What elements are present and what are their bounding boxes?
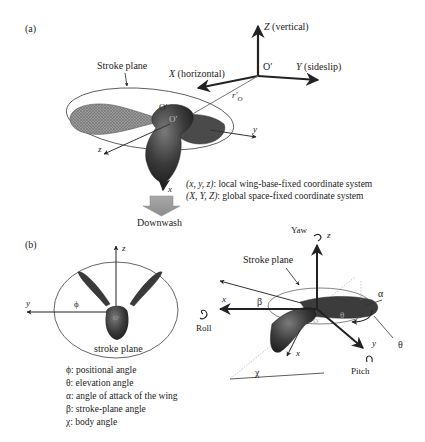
front-stroke-plane-label: stroke plane [94,343,143,354]
alpha-label: α [378,288,384,299]
angle-text: : body angle [70,417,117,427]
downwash-arrow [143,196,180,216]
origin-label-a: O′ [159,102,167,112]
front-right-wing [130,272,162,306]
theta-outer-label: θ [398,339,403,350]
stroke-plane-label-a: Stroke plane [97,60,148,71]
local-y-label: y [252,124,257,134]
side-origin-label: O′ [313,317,320,325]
local-x-axis [163,180,164,190]
theta-pointer [374,316,393,338]
side-x-label: x [221,294,226,304]
Y-axis-arrow [258,76,318,80]
legend-global-text: : global space-fixed coordinate system [217,191,363,201]
side-z-label: z [326,230,331,240]
legend-local-coords: (x, y, z): local wing-base-fixed coordin… [186,178,372,190]
roll-label: Roll [196,323,212,333]
roll-rotation-icon [200,310,207,319]
panel-a-label: (a) [25,23,36,35]
angle-def-phi: ϕ: positional angle [66,364,136,376]
front-left-wing [78,272,110,306]
Z-axis-label: Z (vertical) [264,21,309,33]
angle-def-theta: θ: elevation angle [66,377,133,389]
Y-axis-label: Y (sideslip) [296,61,341,73]
angle-text: : angle of attack of the wing [71,391,178,401]
pitch-rotation-icon [366,356,372,362]
legend-global-symbol: (X, Y, Z) [186,191,217,201]
front-y-label: y [25,298,30,308]
theta-inner-label: θ [340,310,344,320]
angle-def-alpha: α: angle of attack of the wing [66,390,178,402]
angle-text: : positional angle [71,365,136,375]
legend-local-text: : local wing-base-fixed coordinate syste… [213,179,372,189]
stroke-plane-pointer-a [125,73,127,86]
X-axis-label: X (horizontal) [168,68,225,80]
angle-def-chi: χ: body angle [66,416,117,428]
pitch-label: Pitch [351,366,370,376]
yaw-label: Yaw [291,225,308,235]
figure-canvas: (a) Z (vertical) Y (sideslip) X (horizon… [0,0,425,442]
origin-label-wing-a: O′ [169,114,177,124]
horizontal-ground-line [230,373,324,379]
downwash-label: Downwash [137,217,182,228]
legend-local-symbol: (x, y, z) [186,179,213,189]
side-y-label: y [371,338,376,348]
side-body [270,308,316,353]
angle-text: : elevation angle [71,378,134,388]
front-view: z y ϕ O′ stroke plane [25,243,178,358]
front-origin-label: O′ [113,314,120,322]
front-z-label: z [121,243,126,253]
side-body-x-label: x [295,348,300,358]
yaw-rotation-icon [314,235,321,241]
panel-b-label: (b) [25,239,37,251]
side-view: χ Stroke plane β O′ θ z Yaw x Roll y Pit… [196,225,403,379]
angle-def-beta: β: stroke-plane angle [66,403,146,415]
side-stroke-plane-pointer [286,268,299,285]
local-z-label: z [97,144,102,154]
global-origin-label: O′ [263,61,272,72]
phi-label: ϕ [74,299,79,309]
left-wing-mesh [70,104,158,134]
angle-text: : stroke-plane angle [71,404,146,414]
r-vector-label: r′O [232,90,243,103]
local-x-label: x [167,184,172,194]
legend-global-coords: (X, Y, Z): global space-fixed coordinate… [186,190,363,202]
beta-label: β [257,296,262,307]
front-body [105,306,128,340]
side-stroke-plane-label: Stroke plane [243,254,294,265]
chi-label: χ [254,367,260,378]
